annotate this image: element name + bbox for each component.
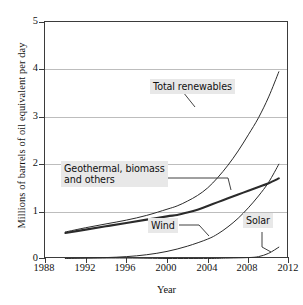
x-tick-label-1988: 1988 bbox=[24, 262, 64, 273]
x-tick-label-2008: 2008 bbox=[227, 262, 267, 273]
x-axis-title: Year bbox=[44, 284, 289, 295]
x-tick-label-1992: 1992 bbox=[65, 262, 105, 273]
leader-line-geothermal bbox=[157, 178, 231, 190]
leader-line-total-renewables bbox=[153, 92, 195, 107]
series-line-total-renewables bbox=[65, 72, 279, 232]
y-tick-label-4: 4 bbox=[12, 62, 38, 73]
leader-line-wind bbox=[179, 225, 209, 236]
x-tick-label-2000: 2000 bbox=[146, 262, 186, 273]
leader-line-solar bbox=[262, 232, 271, 252]
x-tick-label-2004: 2004 bbox=[187, 262, 227, 273]
annotation-wind: Wind bbox=[148, 218, 178, 233]
y-tick-label-1: 1 bbox=[12, 205, 38, 216]
annotation-geothermal-biomass: Geothermal, biomass and others bbox=[61, 161, 168, 187]
chart-figure: Millions of barrels of oil equivalent pe… bbox=[0, 0, 303, 305]
x-tick-label-2012: 2012 bbox=[268, 262, 303, 273]
y-tick-label-2: 2 bbox=[12, 157, 38, 168]
x-tick-label-1996: 1996 bbox=[105, 262, 145, 273]
y-tick-label-3: 3 bbox=[12, 110, 38, 121]
annotation-total-renewables: Total renewables bbox=[150, 79, 235, 94]
y-axis-title: Millions of barrels of oil equivalent pe… bbox=[16, 11, 27, 261]
annotation-solar: Solar bbox=[243, 213, 273, 228]
y-tick-label-5: 5 bbox=[12, 15, 38, 26]
series-line-solar bbox=[65, 247, 279, 259]
